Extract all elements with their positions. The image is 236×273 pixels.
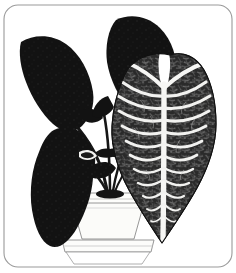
botanical-illustration [0, 0, 236, 273]
illustration-canvas: Potted Caladium Plant Pen-and-ink / half… [0, 0, 236, 273]
saucer [62, 240, 154, 264]
